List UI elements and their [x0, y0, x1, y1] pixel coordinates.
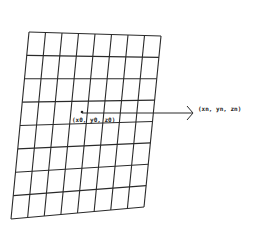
grid-diagram: (x0, y0, z0) (xn, yn, zn) [0, 0, 254, 232]
origin-label: (x0, y0, z0) [72, 116, 115, 124]
skewed-grid [11, 32, 161, 219]
target-label: (xn, yn, zn) [198, 105, 241, 113]
